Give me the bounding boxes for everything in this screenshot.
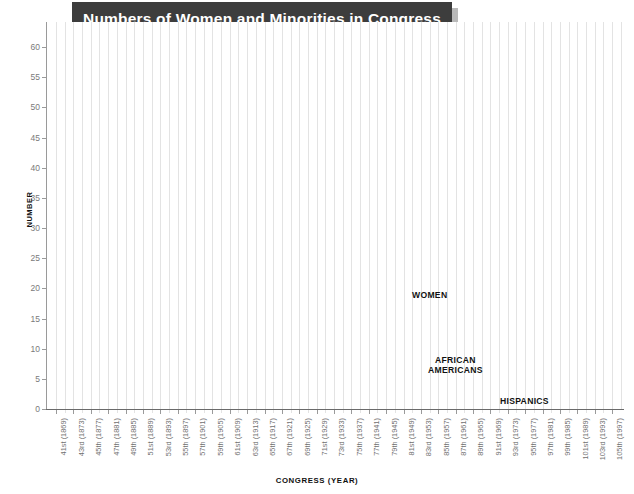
y-tick-mark bbox=[42, 349, 46, 350]
x-tick-label: 91st (1969) bbox=[494, 418, 503, 455]
x-tick-label: 49th (1885) bbox=[129, 418, 138, 456]
x-tick-mark bbox=[73, 410, 74, 414]
y-tick-label: 60 bbox=[18, 43, 40, 52]
x-tick-label: 89th (1965) bbox=[476, 418, 485, 456]
x-tick-mark bbox=[334, 410, 335, 414]
x-tick-mark bbox=[230, 410, 231, 414]
y-tick-mark bbox=[42, 288, 46, 289]
series-label-african-americans-line2: AMERICANS bbox=[428, 365, 483, 375]
x-tick-mark bbox=[525, 410, 526, 414]
y-tick-mark bbox=[42, 107, 46, 108]
x-tick-mark bbox=[612, 410, 613, 414]
x-tick-mark bbox=[577, 410, 578, 414]
x-tick-label: 41st (1869) bbox=[59, 418, 68, 455]
y-tick-mark bbox=[42, 168, 46, 169]
x-tick-mark-minor bbox=[569, 410, 570, 413]
x-tick-mark bbox=[560, 410, 561, 414]
y-tick-mark bbox=[42, 138, 46, 139]
x-tick-mark bbox=[351, 410, 352, 414]
x-tick-mark bbox=[490, 410, 491, 414]
x-tick-label: 47th (1881) bbox=[112, 418, 121, 456]
x-tick-mark bbox=[543, 410, 544, 414]
x-tick-mark bbox=[282, 410, 283, 414]
x-tick-mark-minor bbox=[586, 410, 587, 413]
y-tick-mark bbox=[42, 379, 46, 380]
series-label-hispanics: HISPANICS bbox=[500, 396, 549, 406]
x-tick-label: 61st (1909) bbox=[233, 418, 242, 455]
x-tick-mark bbox=[108, 410, 109, 414]
x-tick-mark bbox=[178, 410, 179, 414]
y-tick-mark bbox=[42, 258, 46, 259]
x-tick-label: 93rd (1973) bbox=[511, 418, 520, 456]
x-tick-mark-minor bbox=[482, 410, 483, 413]
x-axis-label: CONGRESS (YEAR) bbox=[0, 476, 634, 485]
x-tick-mark bbox=[160, 410, 161, 414]
x-tick-label: 87th (1961) bbox=[459, 418, 468, 456]
x-tick-mark bbox=[195, 410, 196, 414]
x-tick-label: 63rd (1913) bbox=[251, 418, 260, 456]
x-tick-label: 43rd (1873) bbox=[77, 418, 86, 456]
x-tick-label: 83rd (1953) bbox=[424, 418, 433, 456]
x-tick-label: 53rd (1893) bbox=[164, 418, 173, 456]
x-tick-mark-minor bbox=[117, 410, 118, 413]
x-tick-mark-minor bbox=[377, 410, 378, 413]
x-tick-mark bbox=[369, 410, 370, 414]
x-tick-mark bbox=[317, 410, 318, 414]
y-tick-mark bbox=[42, 319, 46, 320]
x-tick-mark-minor bbox=[204, 410, 205, 413]
x-tick-label: 67th (1921) bbox=[285, 418, 294, 456]
y-tick-mark bbox=[42, 228, 46, 229]
x-tick-mark-minor bbox=[412, 410, 413, 413]
x-tick-mark-minor bbox=[152, 410, 153, 413]
x-tick-mark-minor bbox=[325, 410, 326, 413]
x-tick-mark-minor bbox=[551, 410, 552, 413]
series-label-african-americans: AFRICAN AMERICANS bbox=[428, 355, 483, 375]
x-tick-mark-minor bbox=[603, 410, 604, 413]
x-tick-mark bbox=[126, 410, 127, 414]
y-tick-label: 45 bbox=[18, 134, 40, 143]
x-tick-label: 97th (1981) bbox=[546, 418, 555, 456]
y-tick-label: 25 bbox=[18, 254, 40, 263]
y-tick-label: 55 bbox=[18, 73, 40, 82]
x-tick-label: 69th (1925) bbox=[303, 418, 312, 456]
x-tick-mark bbox=[212, 410, 213, 414]
x-tick-mark-minor bbox=[291, 410, 292, 413]
x-tick-mark bbox=[91, 410, 92, 414]
x-tick-label: 73rd (1933) bbox=[337, 418, 346, 456]
chart-figure: Numbers of Women and Minorities in Congr… bbox=[0, 0, 634, 494]
y-tick-mark bbox=[42, 77, 46, 78]
x-tick-mark bbox=[56, 410, 57, 414]
y-tick-label: 15 bbox=[18, 315, 40, 324]
y-tick-mark bbox=[42, 198, 46, 199]
x-tick-mark bbox=[299, 410, 300, 414]
series-label-african-americans-line1: AFRICAN bbox=[428, 355, 483, 365]
x-tick-mark-minor bbox=[430, 410, 431, 413]
x-tick-label: 65th (1917) bbox=[268, 418, 277, 456]
x-tick-label: 85th (1957) bbox=[442, 418, 451, 456]
series-label-women: WOMEN bbox=[412, 290, 447, 300]
x-tick-mark-minor bbox=[447, 410, 448, 413]
x-tick-mark-minor bbox=[82, 410, 83, 413]
y-tick-mark bbox=[42, 47, 46, 48]
x-tick-mark bbox=[438, 410, 439, 414]
x-tick-label: 45th (1877) bbox=[94, 418, 103, 456]
x-tick-mark-minor bbox=[343, 410, 344, 413]
x-tick-label: 79th (1945) bbox=[390, 418, 399, 456]
x-tick-label: 59th (1905) bbox=[216, 418, 225, 456]
y-axis-label: NUMBER bbox=[25, 165, 34, 255]
x-tick-mark-minor bbox=[395, 410, 396, 413]
y-tick-mark bbox=[42, 409, 46, 410]
x-tick-label: 51st (1889) bbox=[146, 418, 155, 455]
x-tick-mark bbox=[456, 410, 457, 414]
y-tick-label: 50 bbox=[18, 103, 40, 112]
x-tick-mark bbox=[143, 410, 144, 414]
x-tick-mark bbox=[421, 410, 422, 414]
x-tick-mark bbox=[404, 410, 405, 414]
x-tick-label: 57th (1901) bbox=[198, 418, 207, 456]
x-tick-label: 105th (1997) bbox=[615, 418, 624, 460]
x-tick-mark-minor bbox=[238, 410, 239, 413]
x-tick-mark bbox=[508, 410, 509, 414]
x-tick-mark bbox=[386, 410, 387, 414]
y-tick-label: 5 bbox=[18, 375, 40, 384]
x-tick-label: 101st (1989) bbox=[581, 418, 590, 460]
